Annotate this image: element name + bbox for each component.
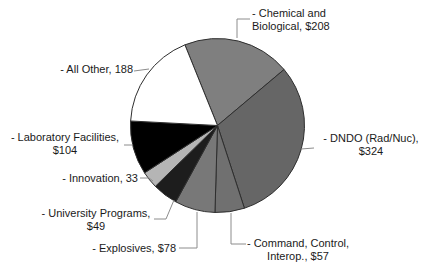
slice-label-dndo-rad-nuc: - DNDO (Rad/Nuc), $324: [315, 132, 427, 158]
leader-line-all-other: [134, 69, 149, 71]
leader-line-command-control-interop: [231, 213, 246, 244]
pie-slices-group: [131, 39, 305, 213]
slice-label-line: - Innovation, 33: [50, 172, 138, 185]
leader-line-chemical-biological: [237, 19, 250, 38]
slice-label-line: Interop., $57: [246, 250, 350, 263]
slice-label-line: $324: [315, 145, 427, 158]
slice-label-command-control-interop: - Command, Control, Interop., $57: [246, 237, 350, 263]
slice-label-line: - Chemical and: [252, 7, 372, 20]
slice-label-line: - Command, Control,: [246, 237, 350, 250]
slice-label-line: Biological, $208: [252, 20, 372, 33]
slice-label-line: $49: [38, 220, 154, 233]
slice-label-all-other: - All Other, 188: [45, 63, 133, 76]
slice-label-line: - DNDO (Rad/Nuc),: [315, 132, 427, 145]
slice-label-line: $104: [6, 144, 124, 157]
leader-line-explosives: [179, 212, 197, 248]
leader-line-university-programs: [154, 200, 174, 219]
slice-label-chemical-biological: - Chemical and Biological, $208: [252, 7, 372, 33]
leader-line-dndo-rad-nuc: [301, 148, 314, 149]
slice-label-university-programs: - University Programs, $49: [38, 207, 154, 233]
slice-label-line: - All Other, 188: [45, 63, 133, 76]
pie-chart-figure: - Chemical and Biological, $208 - DNDO (…: [0, 0, 429, 277]
slice-label-explosives: - Explosives, $78: [88, 242, 176, 255]
slice-label-line: - University Programs,: [38, 207, 154, 220]
slice-label-laboratory-facilities: - Laboratory Facilities, $104: [6, 131, 124, 157]
slice-label-line: - Explosives, $78: [88, 242, 176, 255]
slice-label-line: - Laboratory Facilities,: [6, 131, 124, 144]
slice-label-innovation: - Innovation, 33: [50, 172, 138, 185]
